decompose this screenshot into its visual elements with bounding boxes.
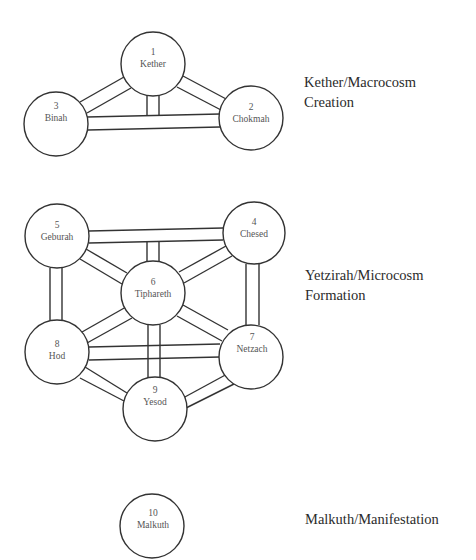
path-tiphareth-yesod — [148, 325, 160, 378]
path-kether-chokmah — [177, 76, 228, 110]
node-yesod-name: Yesod — [143, 397, 167, 407]
node-tiphareth-number: 6 — [151, 277, 156, 287]
group-label-macrocosm: Kether/Macrocosm Creation — [304, 72, 416, 112]
path-geburah-hod — [50, 268, 62, 320]
node-chesed-number: 4 — [252, 217, 257, 227]
path-tiphareth-up — [147, 242, 159, 261]
node-chesed-name: Chesed — [240, 229, 268, 239]
node-tiphareth-name: Tiphareth — [135, 289, 172, 299]
path-kether-down — [147, 96, 159, 116]
node-kether-name: Kether — [140, 59, 167, 69]
node-binah-number: 3 — [54, 101, 59, 111]
node-hod-name: Hod — [49, 351, 66, 361]
group-label-microcosm: Yetzirah/Microcosm Formation — [305, 265, 424, 305]
node-geburah-name: Geburah — [41, 232, 74, 242]
path-hod-yesod — [80, 367, 127, 401]
path-geburah-chesed — [89, 228, 223, 243]
path-binah-chokmah — [87, 114, 220, 130]
macrocosm-title: Kether/Macrocosm — [304, 72, 416, 92]
node-hod-number: 8 — [55, 339, 60, 349]
path-tiphareth-hod — [82, 307, 132, 343]
manifestation-title: Malkuth/Manifestation — [305, 509, 439, 529]
node-kether-number: 1 — [151, 47, 156, 57]
path-kether-binah — [80, 77, 131, 113]
node-yesod-number: 9 — [153, 385, 158, 395]
path-tiphareth-netzach — [177, 305, 228, 341]
node-malkuth-number: 10 — [148, 508, 158, 518]
path-chesed-netzach — [246, 264, 259, 325]
microcosm-subtitle: Formation — [305, 285, 424, 305]
node-binah-name: Binah — [45, 113, 68, 123]
node-geburah-number: 5 — [55, 220, 60, 230]
microcosm-title: Yetzirah/Microcosm — [305, 265, 424, 285]
macrocosm-subtitle: Creation — [304, 92, 416, 112]
group-label-manifestation: Malkuth/Manifestation — [305, 509, 439, 529]
node-netzach-number: 7 — [250, 332, 255, 342]
path-geburah-tiphareth — [80, 249, 127, 284]
path-chesed-tiphareth — [179, 246, 232, 283]
path-hod-netzach — [89, 344, 220, 360]
node-malkuth-name: Malkuth — [137, 520, 169, 530]
node-netzach-name: Netzach — [236, 344, 267, 354]
node-chokmah-number: 2 — [249, 102, 254, 112]
node-chokmah-name: Chokmah — [233, 114, 270, 124]
